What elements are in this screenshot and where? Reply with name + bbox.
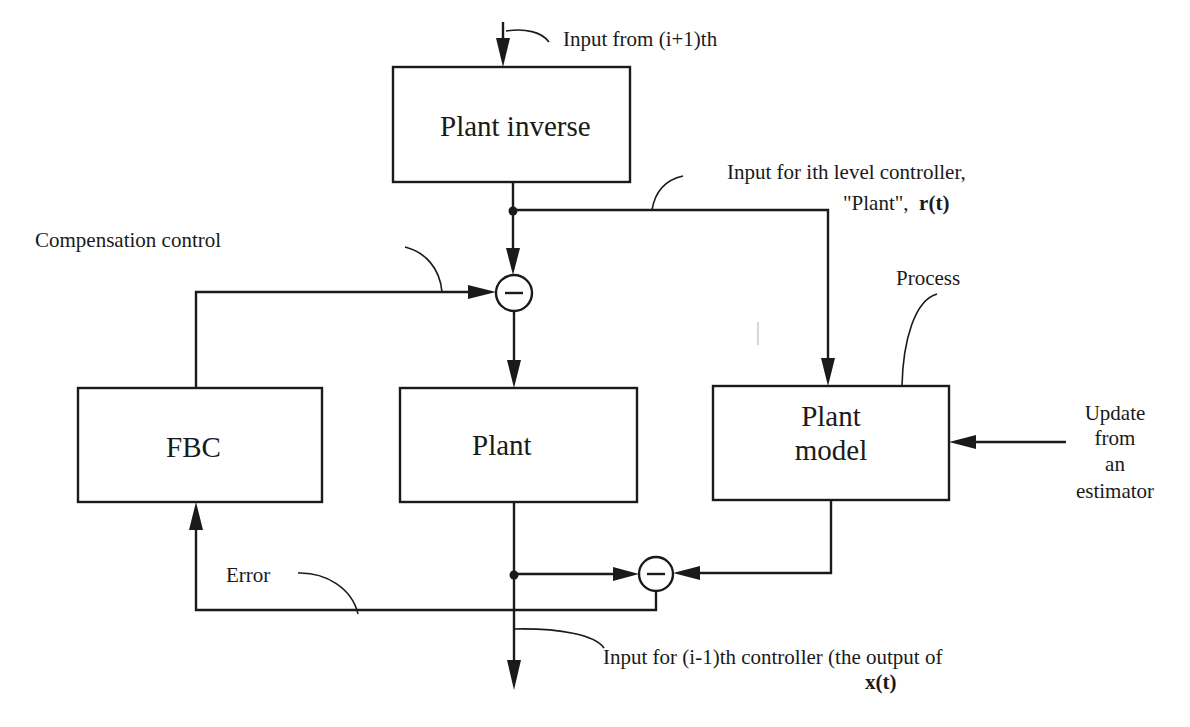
diagram-graphics <box>0 0 1190 727</box>
compensation-summing-junction <box>496 275 532 311</box>
input-from-above-arrow <box>496 22 549 67</box>
r-to-sum-arrow <box>506 211 520 275</box>
fbc-label: FBC <box>166 433 221 462</box>
input-ith-label-line2: "Plant", r(t) <box>843 193 949 214</box>
error-summing-junction <box>639 557 673 591</box>
error-feedback-line <box>189 502 656 614</box>
compensation-control-label: Compensation control <box>35 230 221 251</box>
plant-model-label-line1: Plant <box>773 402 889 431</box>
output-label-line1: Input for (i-1)th controller (the output… <box>603 647 942 668</box>
update-label-line4: estimator <box>1055 481 1175 502</box>
input-from-above-label: Input from (i+1)th <box>563 29 717 50</box>
update-label-line2: from <box>1055 428 1175 449</box>
input-ith-label-line1: Input for ith level controller, <box>727 162 966 183</box>
plant-quoted-text: "Plant", <box>843 191 909 215</box>
update-label-line3: an <box>1055 454 1175 475</box>
model-to-error-sum-arrow <box>673 500 831 580</box>
x-of-t-symbol: x(t) <box>865 672 896 693</box>
plant-model-label-line2: model <box>773 436 889 465</box>
plant-label: Plant <box>472 431 532 460</box>
plant-output-line <box>507 502 604 690</box>
process-leader-line <box>902 294 937 386</box>
update-label-line1: Update <box>1055 403 1175 424</box>
sum-to-plant-arrow <box>507 311 521 388</box>
plant-to-error-sum-arrow <box>514 567 639 581</box>
process-label: Process <box>896 268 960 289</box>
r-of-t-symbol: r(t) <box>919 191 949 215</box>
plant-inverse-label: Plant inverse <box>440 112 591 141</box>
update-from-estimator-arrow <box>949 435 1066 449</box>
r-signal-branch <box>513 176 835 386</box>
error-label: Error <box>226 565 270 586</box>
block-diagram: Plant inverse FBC Plant Plant model Inpu… <box>0 0 1190 727</box>
compensation-control-line <box>196 247 496 388</box>
